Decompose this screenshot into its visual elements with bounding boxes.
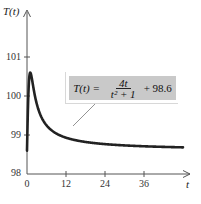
annotation-leader-line bbox=[73, 104, 95, 126]
x-axis-title: t bbox=[186, 178, 190, 190]
y-tick-label-101: 101 bbox=[6, 51, 21, 62]
x-tick-label-0: 0 bbox=[25, 178, 30, 189]
formula-numerator: 4t bbox=[116, 78, 131, 89]
x-tick-label-12: 12 bbox=[61, 178, 71, 189]
y-tick-label-99: 99 bbox=[11, 129, 21, 140]
formula-lhs: T(t) = bbox=[73, 82, 100, 94]
formula-fraction: 4t t² + 1 bbox=[109, 78, 138, 99]
formula-denominator: t² + 1 bbox=[109, 89, 138, 99]
y-tick-label-98: 98 bbox=[11, 167, 21, 178]
x-tick-label-36: 36 bbox=[139, 178, 149, 189]
formula-annotation: T(t) = 4t t² + 1 + 98.6 bbox=[69, 76, 176, 100]
formula-rhs: + 98.6 bbox=[144, 82, 172, 94]
y-axis-title: T(t) bbox=[3, 5, 20, 18]
y-tick-label-100: 100 bbox=[6, 90, 21, 101]
x-tick-label-24: 24 bbox=[100, 178, 110, 189]
